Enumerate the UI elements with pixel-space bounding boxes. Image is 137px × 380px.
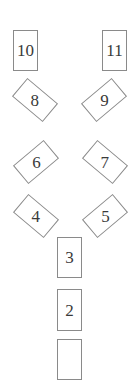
node-label: 10: [17, 42, 34, 59]
node-10: 10: [13, 30, 38, 71]
node-label: 11: [106, 42, 122, 59]
node-9: 9: [81, 78, 127, 122]
node-11: 11: [102, 30, 127, 71]
node-label: 5: [101, 208, 110, 225]
node-7: 7: [82, 140, 128, 184]
node-8: 8: [12, 78, 58, 122]
node-label: 9: [100, 92, 109, 109]
node-label: 7: [101, 154, 110, 171]
node-4: 4: [13, 194, 59, 238]
node-3: 3: [57, 237, 82, 278]
node-6: 6: [13, 140, 59, 184]
node-label: 8: [31, 92, 40, 109]
node-label: 2: [65, 302, 74, 319]
node-2: 2: [57, 289, 82, 331]
node-label: 3: [65, 249, 74, 266]
node-1-partial: [57, 339, 82, 380]
node-label: 4: [32, 208, 41, 225]
node-label: 6: [32, 154, 41, 171]
node-5: 5: [82, 194, 128, 238]
